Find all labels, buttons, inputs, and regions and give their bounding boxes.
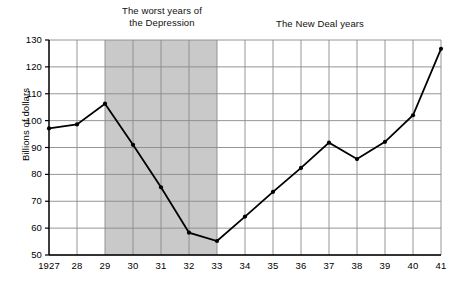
data-point bbox=[411, 113, 415, 117]
data-point bbox=[355, 157, 359, 161]
x-tick-label: 1927 bbox=[38, 260, 60, 271]
x-tick-label: 37 bbox=[324, 260, 335, 271]
data-point bbox=[215, 239, 219, 243]
chart-figure: The worst years of the Depression The Ne… bbox=[0, 0, 458, 294]
x-tick-label: 29 bbox=[100, 260, 111, 271]
x-tick-label: 30 bbox=[128, 260, 139, 271]
x-tick-label: 28 bbox=[72, 260, 83, 271]
x-tick-label: 35 bbox=[268, 260, 279, 271]
data-point bbox=[439, 47, 443, 51]
data-point bbox=[75, 122, 79, 126]
data-point bbox=[131, 143, 135, 147]
data-point bbox=[103, 102, 107, 106]
plot-area bbox=[0, 0, 458, 294]
data-point bbox=[327, 141, 331, 145]
data-point bbox=[383, 140, 387, 144]
data-point bbox=[159, 185, 163, 189]
data-point bbox=[271, 190, 275, 194]
x-tick-label: 31 bbox=[156, 260, 167, 271]
x-tick-label: 41 bbox=[436, 260, 447, 271]
y-tick-label: 100 bbox=[16, 115, 42, 126]
data-point bbox=[299, 166, 303, 170]
y-tick-label: 50 bbox=[16, 249, 42, 260]
x-tick-label: 34 bbox=[240, 260, 251, 271]
y-tick-label: 70 bbox=[16, 195, 42, 206]
data-point bbox=[47, 126, 51, 130]
data-point bbox=[187, 231, 191, 235]
x-tick-label: 36 bbox=[296, 260, 307, 271]
y-tick-label: 130 bbox=[16, 34, 42, 45]
x-tick-label: 33 bbox=[212, 260, 223, 271]
y-tick-label: 80 bbox=[16, 168, 42, 179]
x-tick-label: 32 bbox=[184, 260, 195, 271]
data-point bbox=[243, 214, 247, 218]
x-tick-label: 40 bbox=[408, 260, 419, 271]
y-tick-label: 90 bbox=[16, 142, 42, 153]
y-tick-label: 60 bbox=[16, 222, 42, 233]
x-tick-label: 39 bbox=[380, 260, 391, 271]
x-tick-label: 38 bbox=[352, 260, 363, 271]
y-tick-label: 120 bbox=[16, 61, 42, 72]
y-tick-label: 110 bbox=[16, 88, 42, 99]
